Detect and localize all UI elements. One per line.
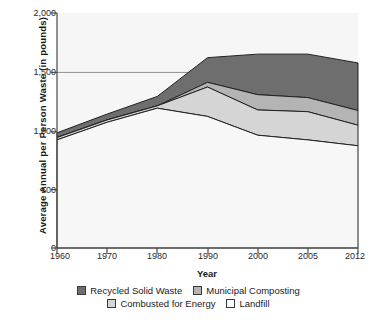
plot-area [0,0,377,332]
x-tick-1960: 1960 [40,252,80,261]
legend-label: Recycled Solid Waste [90,286,182,296]
legend-label: Municipal Composting [206,286,299,296]
legend-item-combusted-for-energy[interactable]: Combusted for Energy [107,299,215,309]
legend-label: Landfill [239,299,269,309]
y-axis-ticks [51,13,57,248]
x-tick-1990: 1990 [188,252,228,261]
legend-item-municipal-composting[interactable]: Municipal Composting [193,286,299,296]
stacked-area-chart-figure: Average Annual per Person Waste (in poun… [0,0,377,332]
legend-row-2: Combusted for Energy Landfill [0,299,377,309]
legend-item-recycled-solid-waste[interactable]: Recycled Solid Waste [77,286,182,296]
x-tick-1980: 1980 [137,252,177,261]
legend-swatch-icon [226,299,235,308]
x-tick-2000: 2000 [238,252,278,261]
legend-row-1: Recycled Solid Waste Municipal Compostin… [0,286,377,296]
legend-swatch-icon [193,286,202,295]
legend-swatch-icon [77,286,86,295]
x-tick-1970: 1970 [87,252,127,261]
x-tick-2005: 2005 [288,252,328,261]
x-axis-title: Year [56,268,358,279]
x-tick-2012: 2012 [335,252,375,261]
legend-item-landfill[interactable]: Landfill [226,299,269,309]
chart-legend: Recycled Solid Waste Municipal Compostin… [0,286,377,311]
legend-label: Combusted for Energy [120,299,215,309]
legend-swatch-icon [107,299,116,308]
